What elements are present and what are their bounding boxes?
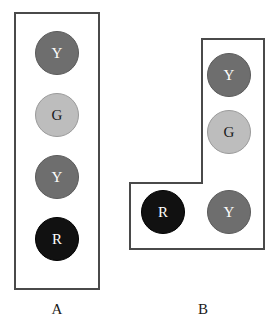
token-label: Y	[224, 204, 235, 219]
token-label: Y	[52, 169, 63, 184]
token-label: R	[158, 204, 168, 219]
panel-b-token-1: Y	[207, 53, 251, 97]
token-label: Y	[52, 45, 63, 60]
token-label: G	[52, 107, 63, 122]
panel-a-token-1: Y	[35, 31, 79, 75]
panel-b-token-3: R	[141, 190, 185, 234]
figure-canvas: Y G Y R Y G R Y A B	[0, 0, 276, 325]
panel-b-token-4: Y	[207, 190, 251, 234]
panel-b-token-2: G	[207, 110, 251, 154]
token-label: G	[224, 124, 235, 139]
panel-a-token-4: R	[35, 217, 79, 261]
panel-a-token-2: G	[35, 93, 79, 137]
panel-b-caption: B	[183, 301, 223, 318]
panel-a-token-3: Y	[35, 155, 79, 199]
token-label: R	[52, 231, 62, 246]
panel-a-caption: A	[37, 301, 77, 318]
token-label: Y	[224, 67, 235, 82]
